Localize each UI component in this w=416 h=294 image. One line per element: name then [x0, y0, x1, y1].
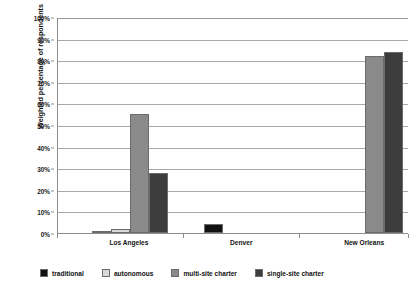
y-axis-tick-mark — [51, 190, 54, 191]
y-axis-tick-label: 40% — [37, 144, 50, 151]
bar — [204, 224, 223, 233]
y-axis-tick-mark — [51, 61, 54, 62]
bar — [384, 52, 403, 233]
y-axis-tick-label: 30% — [37, 166, 50, 173]
legend-item[interactable]: single-site charter — [255, 269, 324, 277]
y-axis-tick-mark — [51, 82, 54, 83]
legend-item[interactable]: traditional — [40, 269, 84, 277]
bar-chart-figure: Weighted percentage of respondents 0%10%… — [0, 0, 416, 294]
bar-group — [91, 18, 169, 233]
x-axis-tick-mark — [408, 234, 409, 238]
y-axis-tick-label: 50% — [37, 123, 50, 130]
x-axis-category-label: New Orleans — [344, 239, 384, 246]
y-axis-tick-label: 10% — [37, 209, 50, 216]
y-axis-tick-label: 70% — [37, 79, 50, 86]
legend-label: multi-site charter — [183, 270, 237, 277]
legend-swatch-icon — [171, 269, 179, 277]
legend-swatch-icon — [255, 269, 263, 277]
y-axis-tick-label: 90% — [37, 36, 50, 43]
plot-area — [57, 18, 408, 234]
bar — [130, 114, 149, 233]
bars-layer — [58, 18, 408, 233]
y-axis-tick-label: 20% — [37, 187, 50, 194]
legend-swatch-icon — [102, 269, 110, 277]
x-axis-tick-mark — [57, 234, 58, 238]
y-axis-tick-mark — [51, 234, 54, 235]
x-axis-category-label: Los Angeles — [109, 239, 148, 246]
y-axis-tick-labels: 0%10%20%30%40%50%60%70%80%90%100% — [0, 18, 54, 234]
y-axis-tick-label: 0% — [41, 231, 50, 238]
x-axis-category-label: Denver — [230, 239, 252, 246]
legend-label: autonomous — [114, 270, 154, 277]
y-axis-tick-label: 60% — [37, 101, 50, 108]
bar — [92, 231, 111, 233]
legend-swatch-icon — [40, 269, 48, 277]
y-axis-tick-mark — [51, 212, 54, 213]
bar — [149, 173, 168, 233]
x-axis-labels: Los AngelesDenverNew Orleans — [57, 239, 408, 253]
legend-label: single-site charter — [267, 270, 324, 277]
y-axis-tick-mark — [51, 147, 54, 148]
legend-item[interactable]: multi-site charter — [171, 269, 237, 277]
y-axis-tick-mark — [51, 169, 54, 170]
chart-legend: traditionalautonomousmulti-site charters… — [40, 266, 370, 280]
y-axis-tick-label: 100% — [34, 15, 50, 22]
y-axis-tick-mark — [51, 39, 54, 40]
bar — [365, 56, 384, 233]
bar-group — [203, 18, 281, 233]
legend-item[interactable]: autonomous — [102, 269, 154, 277]
y-axis-tick-mark — [51, 18, 54, 19]
y-axis-tick-mark — [51, 104, 54, 105]
legend-label: traditional — [52, 270, 84, 277]
bar-group — [326, 18, 404, 233]
bar — [111, 229, 130, 233]
x-axis-tick-mark — [183, 234, 184, 238]
y-axis-tick-label: 80% — [37, 58, 50, 65]
y-axis-tick-mark — [51, 126, 54, 127]
x-axis-tick-mark — [299, 234, 300, 238]
